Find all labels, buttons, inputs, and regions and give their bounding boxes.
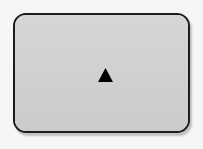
triangle-up-icon[interactable] — [98, 68, 113, 82]
triangle-up-icon-svg — [98, 68, 113, 82]
panel-content-area — [15, 15, 192, 135]
rounded-panel[interactable] — [13, 13, 190, 133]
screen-canvas — [0, 0, 203, 149]
glyph-label — [0, 0, 1, 1]
